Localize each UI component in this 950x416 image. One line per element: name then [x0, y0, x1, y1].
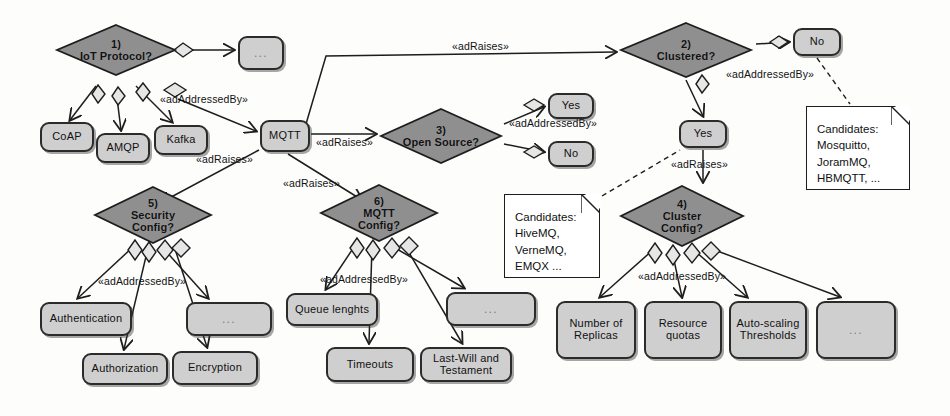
- edge-label-raises-open-source: «adRaises»: [316, 136, 373, 148]
- decision-label: 4) Cluster Config?: [661, 198, 703, 235]
- edge-label-addressedby-cluster-config: «adAddressedBy»: [638, 270, 726, 282]
- decision-open-source[interactable]: 3) Open Source?: [380, 108, 502, 164]
- decision-text: MQTT Config?: [358, 207, 400, 232]
- edge-label-raises-cluster-config: «adRaises»: [671, 158, 728, 170]
- diagram-canvas: 1) IoT Protocol? 2) Clustered? 3) Open S…: [0, 0, 950, 416]
- node-ellipsis-mqtt-config[interactable]: ...: [446, 292, 536, 326]
- decision-number: 2): [657, 38, 715, 50]
- decision-security-config[interactable]: 5) Security Config?: [94, 186, 212, 244]
- decision-iot-protocol[interactable]: 1) IoT Protocol?: [56, 24, 176, 76]
- node-coap[interactable]: CoAP: [40, 122, 94, 152]
- node-ellipsis-security[interactable]: ...: [186, 302, 272, 336]
- node-number-of-replicas[interactable]: Number of Replicas: [556, 301, 636, 359]
- node-timeouts[interactable]: Timeouts: [326, 347, 414, 382]
- decision-text: Security Config?: [131, 209, 175, 234]
- node-clustered-no[interactable]: No: [793, 28, 841, 56]
- edge-label-addressedby-security: «adAddressedBy»: [98, 275, 186, 287]
- edge-label-raises-security: «adRaises»: [196, 153, 253, 165]
- decision-number: 4): [661, 198, 703, 210]
- node-ellipsis-cluster-config[interactable]: ...: [816, 301, 896, 359]
- decision-label: 3) Open Source?: [403, 124, 479, 149]
- decision-text: Open Source?: [403, 136, 479, 148]
- node-open-source-no[interactable]: No: [548, 141, 594, 167]
- note-clustered-no-candidates: Candidates: Mosquitto, JoramMQ, HBMQTT, …: [806, 106, 910, 190]
- decision-label: 6) MQTT Config?: [358, 195, 400, 232]
- decision-number: 5): [131, 197, 175, 209]
- node-open-source-yes[interactable]: Yes: [548, 93, 594, 119]
- decision-number: 3): [403, 124, 479, 136]
- edge-label-raises-clustered: «adRaises»: [452, 40, 509, 52]
- decision-label: 2) Clustered?: [657, 38, 715, 63]
- note-open-source-candidates: Candidates: HiveMQ, VerneMQ, EMQX ...: [504, 194, 600, 278]
- node-resource-quotas[interactable]: Resource quotas: [644, 301, 722, 359]
- decision-cluster-config[interactable]: 4) Cluster Config?: [620, 185, 744, 247]
- node-authentication[interactable]: Authentication: [40, 302, 132, 336]
- node-authorization[interactable]: Authorization: [82, 353, 168, 385]
- node-last-will-testament[interactable]: Last-Will and Testament: [420, 347, 512, 382]
- node-ellipsis-protocol[interactable]: ...: [238, 36, 284, 70]
- decision-text: Clustered?: [657, 50, 715, 62]
- note-fold-line: [891, 106, 910, 125]
- edge-label-addressedby-protocol: «adAddressedBy»: [160, 93, 248, 105]
- note-fold-line: [581, 194, 600, 213]
- note-text: Candidates: HiveMQ, VerneMQ, EMQX ...: [515, 209, 591, 274]
- node-auto-scaling-thresholds[interactable]: Auto-scaling Thresholds: [729, 301, 807, 359]
- edge-label-raises-mqtt-config: «adRaises»: [283, 177, 340, 189]
- node-clustered-yes[interactable]: Yes: [679, 120, 727, 148]
- decision-label: 1) IoT Protocol?: [80, 38, 152, 63]
- decision-text: Cluster Config?: [661, 210, 703, 235]
- node-amqp[interactable]: AMQP: [96, 133, 150, 163]
- node-encryption[interactable]: Encryption: [172, 351, 258, 385]
- decision-number: 6): [358, 195, 400, 207]
- decision-mqtt-config[interactable]: 6) MQTT Config?: [320, 184, 438, 242]
- edge-label-addressedby-open-source: «adAddressedBy»: [509, 117, 597, 129]
- node-mqtt[interactable]: MQTT: [260, 120, 310, 152]
- node-kafka[interactable]: Kafka: [154, 125, 208, 155]
- decision-number: 1): [80, 38, 152, 50]
- edge-label-addressedby-mqtt-config: «adAddressedBy»: [320, 273, 408, 285]
- node-queue-lengths[interactable]: Queue lenghts: [286, 293, 378, 326]
- decision-label: 5) Security Config?: [131, 197, 175, 234]
- edge-label-addressedby-clustered: «adAddressedBy»: [726, 68, 814, 80]
- decision-text: IoT Protocol?: [80, 50, 152, 62]
- note-text: Candidates: Mosquitto, JoramMQ, HBMQTT, …: [817, 121, 901, 186]
